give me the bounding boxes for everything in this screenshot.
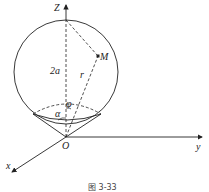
- phi-label: φ: [66, 98, 72, 109]
- radius-label: r: [80, 69, 84, 80]
- origin-label: O: [62, 140, 69, 151]
- cone-left-edge: [33, 114, 66, 137]
- y-axis-label: y: [195, 141, 201, 152]
- top-to-m-line: [66, 20, 98, 56]
- point-m-label: M: [99, 51, 109, 62]
- alpha-label: α: [55, 108, 61, 119]
- x-axis-label: x: [5, 160, 11, 171]
- sphere-diagram: Z M 2a r φ α O y x 图 3-33: [0, 0, 209, 192]
- diameter-label: 2a: [50, 65, 60, 76]
- figure-caption: 图 3-33: [88, 183, 117, 192]
- x-axis: [12, 137, 66, 172]
- z-axis-label: Z: [54, 2, 60, 13]
- cone-right-edge: [66, 114, 101, 137]
